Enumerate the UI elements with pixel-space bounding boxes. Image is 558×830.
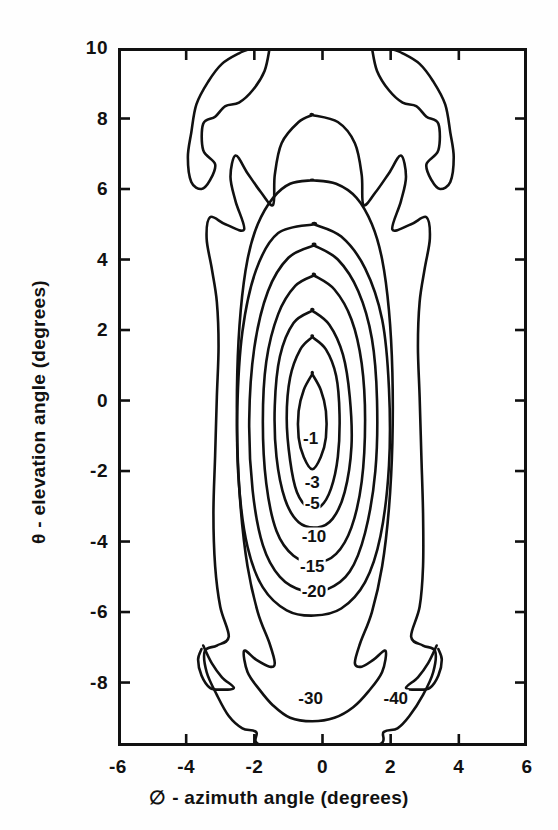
y-tick-label: 4 [62, 249, 108, 271]
x-tick-label: -6 [109, 756, 127, 778]
x-axis-title: ∅ - azimuth angle (degrees) [0, 786, 558, 809]
contour-value-label: -15 [299, 558, 326, 575]
contour-value-label: -30 [297, 690, 324, 707]
y-tick-label: -8 [62, 672, 108, 694]
y-tick-label: 6 [62, 178, 108, 200]
x-tick-label: 6 [521, 756, 532, 778]
contour-value-label: -1 [302, 429, 319, 446]
x-tick-label: 4 [453, 756, 464, 778]
y-tick-label: -6 [62, 601, 108, 623]
contour-value-label: -5 [304, 494, 321, 511]
y-tick-label: 0 [62, 390, 108, 412]
contour-line [204, 114, 436, 746]
contour-value-label: -10 [301, 528, 328, 545]
x-tick-label: -4 [177, 756, 195, 778]
y-axis-title: θ - elevation angle (degrees) [28, 280, 49, 544]
x-tick-label: 2 [385, 756, 396, 778]
contour-plot-figure: 1086420-2-4-6-8-6-4-20246 -1-3-5-10-15-2… [0, 0, 558, 830]
contour-line [263, 274, 365, 563]
y-tick-label: -2 [62, 460, 108, 482]
y-tick-label: 10 [62, 37, 108, 59]
x-tick-label: 0 [317, 756, 328, 778]
contour-value-label: -40 [382, 690, 409, 707]
y-tick-label: 8 [62, 108, 108, 130]
y-axis-title-wrapper: θ - elevation angle (degrees) [28, 232, 58, 592]
contour-value-label: -20 [301, 582, 328, 599]
x-tick-label: -2 [245, 756, 263, 778]
contour-line [298, 372, 327, 469]
contour-lines [118, 48, 527, 746]
contour-value-label: -3 [304, 473, 321, 490]
contour-line [188, 48, 270, 189]
y-tick-label: 2 [62, 319, 108, 341]
contour-line [372, 48, 454, 189]
y-tick-label: -4 [62, 531, 108, 553]
